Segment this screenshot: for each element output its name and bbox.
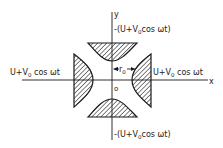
left-electrode [74,54,93,107]
quadrupole-diagram: r0 y x o U+V0 cos ωt U+V0 cos ωt -(U+V0c… [0,0,223,148]
origin-label: o [114,85,118,93]
radius-label: r0 [119,65,126,75]
right-electrode [132,54,151,107]
x-axis-label: x [209,77,214,86]
bottom-electrode [88,99,137,117]
top-electrode [88,43,137,61]
left-potential-label: U+V0 cos ωt [10,68,60,78]
right-potential-label: U+V0 cos ωt [153,68,203,78]
top-potential-label: -(U+V0cos ωt) [114,25,171,35]
bottom-potential-label: -(U+V0cos ωt) [114,130,171,140]
y-axis-label: y [114,10,119,19]
